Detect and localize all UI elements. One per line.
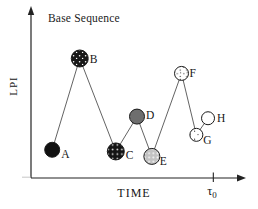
- point-label-D: D: [146, 109, 154, 121]
- y-axis-label: LPI: [7, 76, 19, 96]
- x-axis-label: TIME: [117, 186, 150, 200]
- point-label-A: A: [61, 148, 70, 160]
- point-label-B: B: [90, 53, 98, 65]
- point-label-E: E: [160, 155, 167, 167]
- point-label-H: H: [217, 112, 225, 124]
- point-F: [175, 66, 189, 80]
- point-label-F: F: [190, 67, 196, 79]
- y-axis-arrow: [28, 6, 34, 15]
- point-D: [130, 109, 145, 124]
- point-H: [202, 112, 215, 125]
- chart-title: Base Sequence: [48, 12, 120, 24]
- point-G: [190, 128, 203, 141]
- point-A: [45, 142, 60, 157]
- point-E: [144, 148, 160, 164]
- point-label-G: G: [203, 134, 211, 146]
- base-sequence-figure: τ0TIMELPIABCDEFGH Base Sequence: [0, 0, 258, 209]
- point-B: [71, 50, 88, 67]
- point-label-C: C: [126, 149, 134, 161]
- x-axis-arrow: [237, 175, 246, 182]
- tau-label: τ0: [207, 184, 217, 200]
- point-C: [107, 143, 124, 160]
- chart-canvas: τ0TIMELPIABCDEFGH: [0, 0, 258, 209]
